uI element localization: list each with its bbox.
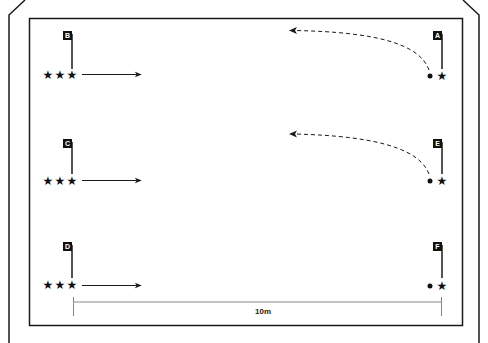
star-icon: ★ [67, 68, 78, 82]
flag-d-label: D [65, 243, 70, 250]
star-icon: ★ [67, 174, 78, 188]
flag-e-label: E [435, 140, 440, 147]
flag-f-label: F [435, 243, 440, 250]
pitch-area [30, 19, 463, 326]
flag-a-label: A [435, 32, 440, 39]
distance-scale: 10m [73, 297, 442, 316]
star-icon: ★ [43, 174, 54, 188]
star-icon: ★ [67, 278, 78, 292]
station-b-players: ★ ★ ★ [43, 68, 78, 82]
star-icon: ★ [43, 68, 54, 82]
outer-frame [9, 0, 479, 343]
ball-icon [428, 179, 433, 184]
star-icon: ★ [437, 279, 448, 293]
star-icon: ★ [55, 174, 66, 188]
ball-icon [428, 284, 433, 289]
flag-b: B [63, 31, 72, 69]
flag-c-label: C [65, 140, 70, 147]
flag-a: A [433, 31, 442, 69]
star-icon: ★ [55, 278, 66, 292]
star-icon: ★ [43, 278, 54, 292]
flag-c: C [63, 139, 72, 174]
scale-label: 10m [255, 307, 271, 316]
star-icon: ★ [437, 174, 448, 188]
station-d-players: ★ ★ ★ [43, 278, 78, 292]
station-c-players: ★ ★ ★ [43, 174, 78, 188]
ball-icon [428, 74, 433, 79]
dashed-arrow [294, 134, 429, 174]
flag-f: F [433, 242, 442, 278]
flag-b-label: B [65, 32, 70, 39]
drill-diagram: B ★ ★ ★ A ★ C ★ ★ ★ E ★ D [0, 0, 488, 343]
dashed-arrowhead [289, 27, 297, 34]
dashed-arrow [294, 31, 429, 71]
star-icon: ★ [437, 69, 448, 83]
flag-e: E [433, 139, 442, 174]
star-icon: ★ [55, 68, 66, 82]
dashed-arrowhead [289, 131, 297, 138]
flag-d: D [63, 242, 72, 278]
